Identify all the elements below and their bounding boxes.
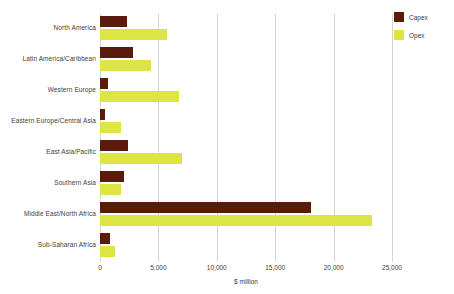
bar-opex[interactable] [100, 215, 372, 226]
bar-capex[interactable] [100, 233, 110, 244]
bar-opex[interactable] [100, 29, 167, 40]
bar-capex[interactable] [100, 140, 128, 151]
bar-opex[interactable] [100, 91, 179, 102]
bar-group [100, 138, 392, 169]
legend-item-opex[interactable]: Opex [394, 30, 448, 40]
x-axis-tick-label: 15,000 [265, 264, 285, 271]
x-axis-tick-label: 10,000 [207, 264, 227, 271]
x-axis-tick-labels: 05,00010,00015,00020,00025,000 [100, 264, 392, 276]
y-axis-label: Sub-Saharan Africa [0, 241, 96, 248]
legend-swatch-icon [394, 12, 404, 22]
bar-group [100, 76, 392, 107]
bar-group [100, 14, 392, 45]
bar-group [100, 200, 392, 231]
x-axis-title: $ million [100, 278, 392, 285]
bar-capex[interactable] [100, 47, 133, 58]
bar-group [100, 231, 392, 262]
bar-opex[interactable] [100, 153, 182, 164]
y-axis-label: North America [0, 24, 96, 31]
y-axis-label: Southern Asia [0, 179, 96, 186]
x-axis-tick-label: 20,000 [324, 264, 344, 271]
x-axis-tick-label: 25,000 [382, 264, 402, 271]
bar-chart: North AmericaLatin America/CaribbeanWest… [0, 0, 454, 294]
plot-area [100, 14, 392, 262]
bar-opex[interactable] [100, 122, 121, 133]
bar-opex[interactable] [100, 184, 121, 195]
y-axis-label: Eastern Europe/Central Asia [0, 117, 96, 124]
y-axis-label: Middle East/North Africa [0, 210, 96, 217]
legend-swatch-icon [394, 30, 404, 40]
bar-capex[interactable] [100, 16, 127, 27]
bar-capex[interactable] [100, 171, 124, 182]
y-axis-label: East Asia/Pacific [0, 148, 96, 155]
legend-item-capex[interactable]: Capex [394, 12, 448, 22]
gridline-25000 [392, 14, 393, 262]
bar-group [100, 45, 392, 76]
legend-label: Opex [409, 32, 425, 39]
bar-group [100, 107, 392, 138]
x-axis-tick-label: 5,000 [150, 264, 166, 271]
bar-opex[interactable] [100, 60, 151, 71]
x-axis-tick-label: 0 [98, 264, 102, 271]
bar-group [100, 169, 392, 200]
bar-capex[interactable] [100, 109, 105, 120]
y-axis-labels: North AmericaLatin America/CaribbeanWest… [0, 14, 96, 262]
legend-label: Capex [409, 14, 428, 21]
y-axis-label: Western Europe [0, 86, 96, 93]
bar-capex[interactable] [100, 78, 108, 89]
bar-opex[interactable] [100, 246, 115, 257]
bar-capex[interactable] [100, 202, 311, 213]
chart-legend: CapexOpex [394, 12, 448, 48]
y-axis-label: Latin America/Caribbean [0, 55, 96, 62]
